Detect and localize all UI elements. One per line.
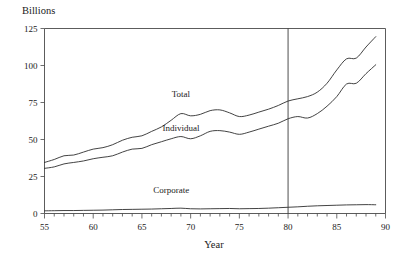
- series-label-individual: Individual: [162, 123, 199, 133]
- y-tick-label: 125: [24, 24, 38, 34]
- data-series-lines: [45, 37, 376, 211]
- y-tick-label: 50: [29, 135, 39, 145]
- plot-frame-border: [45, 29, 386, 214]
- series-line-individual: [45, 65, 376, 169]
- series-label-corporate: Corporate: [153, 185, 189, 195]
- y-axis-title: Billions: [22, 5, 55, 16]
- y-tick-label: 0: [33, 209, 38, 219]
- y-tick-label: 75: [29, 98, 39, 108]
- plot-frame: [45, 29, 386, 214]
- x-axis-tick-labels: 5560657075808590: [40, 222, 391, 232]
- x-tick-label: 80: [284, 222, 294, 232]
- chart-screenshot: 0255075100125 5560657075808590 TotalIndi…: [0, 0, 405, 253]
- x-tick-label: 60: [89, 222, 99, 232]
- x-tick-label: 75: [235, 222, 245, 232]
- y-tick-label: 100: [24, 61, 38, 71]
- y-axis-tick-labels: 0255075100125: [24, 24, 38, 219]
- y-tick-label: 25: [29, 172, 39, 182]
- x-tick-label: 70: [186, 222, 196, 232]
- series-line-corporate: [45, 205, 376, 211]
- x-tick-label: 65: [137, 222, 147, 232]
- series-label-total: Total: [172, 89, 191, 99]
- y-axis-ticks: [41, 29, 45, 214]
- x-axis-title: Year: [204, 239, 224, 250]
- x-tick-label: 90: [381, 222, 391, 232]
- series-line-total: [45, 37, 376, 163]
- line-chart: 0255075100125 5560657075808590 TotalIndi…: [0, 0, 405, 253]
- x-tick-label: 55: [40, 222, 50, 232]
- x-axis-ticks: [45, 214, 386, 219]
- x-tick-label: 85: [332, 222, 342, 232]
